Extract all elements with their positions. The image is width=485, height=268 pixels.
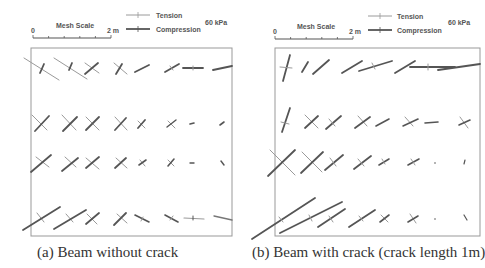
beam-frame (275, 48, 480, 236)
compression-label: Compression (397, 27, 442, 35)
stress-crosses (252, 55, 480, 239)
scale-start-label: 0 (273, 28, 277, 35)
panel-a: 0 Mesh Scale 2 m Tension Compression 60 … (0, 0, 245, 268)
beam-frame (31, 48, 232, 236)
tension-label: Tension (397, 13, 423, 20)
panel-b: 0 Mesh Scale 2 m Tension Compression 60 … (245, 0, 482, 268)
scale-start-label: 0 (31, 27, 35, 34)
panel-b-plot: 0 Mesh Scale 2 m Tension Compression 60 … (245, 0, 482, 268)
stress-crosses (23, 58, 232, 230)
mesh-scale-title: Mesh Scale (297, 23, 335, 30)
panel-a-plot: 0 Mesh Scale 2 m Tension Compression 60 … (0, 0, 245, 268)
stress-legend: Tension Compression 60 kPa (126, 12, 227, 34)
mesh-scale-title: Mesh Scale (56, 22, 94, 29)
stress-legend: Tension Compression 60 kPa (368, 13, 470, 35)
tension-label: Tension (156, 12, 182, 19)
mesh-scale-bar: 0 Mesh Scale 2 m (273, 23, 361, 39)
caption-a: (a) Beam without crack (37, 244, 178, 261)
scale-end-label: 2 m (349, 28, 361, 35)
scale-end-label: 2 m (107, 27, 119, 34)
compression-label: Compression (156, 26, 201, 34)
stress-scale-label: 60 kPa (205, 19, 227, 26)
stress-scale-label: 60 kPa (448, 19, 470, 26)
caption-b: (b) Beam with crack (crack length 1m) (252, 244, 485, 261)
mesh-scale-bar: 0 Mesh Scale 2 m (31, 22, 119, 38)
